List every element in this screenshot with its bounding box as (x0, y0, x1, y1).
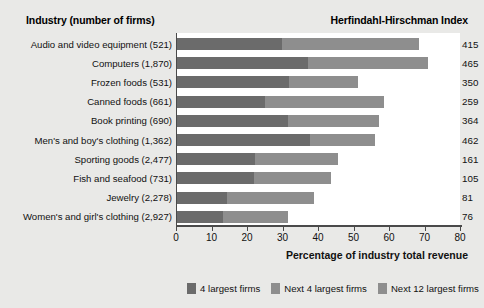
axis-tick (212, 225, 213, 231)
axis-tick (283, 225, 284, 231)
bar-segment (282, 38, 419, 50)
hhi-value-list: 4154653502593644621611058176 (462, 33, 482, 225)
bar-segment (310, 134, 375, 146)
category-label: Jewelry (2,278) (106, 192, 172, 203)
category-label: Sporting goods (2,477) (74, 154, 172, 165)
bar-segment (177, 76, 289, 88)
bar-segment (265, 96, 384, 108)
axis-tick (425, 225, 426, 231)
hhi-value: 76 (462, 211, 473, 222)
axis-tick-label: 20 (241, 232, 252, 243)
category-label: Women's and girl's clothing (2,927) (23, 211, 172, 222)
legend-swatch-icon (271, 283, 280, 294)
hhi-value: 259 (462, 96, 478, 107)
chart-legend: 4 largest firmsNext 4 largest firmsNext … (187, 283, 484, 294)
bar-segment (177, 38, 282, 50)
hhi-value: 462 (462, 135, 478, 146)
axis-tick (460, 225, 461, 231)
hhi-value: 364 (462, 115, 478, 126)
bar-segment (254, 172, 331, 184)
legend-item: 4 largest firms (187, 283, 260, 294)
bar-segment (177, 172, 254, 184)
axis-tick-label: 10 (206, 232, 217, 243)
axis-tick-label: 70 (419, 232, 430, 243)
category-label-list: Audio and video equipment (521)Computers… (0, 33, 172, 225)
industry-column-header: Industry (number of firms) (26, 14, 155, 26)
axis-tick-label: 80 (454, 232, 465, 243)
axis-tick (176, 225, 177, 231)
bar-segment (289, 76, 358, 88)
axis-tick (318, 225, 319, 231)
legend-swatch-icon (187, 283, 196, 294)
axis-tick-label: 0 (173, 232, 179, 243)
bar-segment (308, 57, 428, 69)
axis-tick-label: 60 (383, 232, 394, 243)
plot-area (176, 33, 460, 225)
category-label: Book printing (690) (91, 115, 172, 126)
category-label: Canned foods (661) (87, 96, 172, 107)
x-axis-title: Percentage of industry total revenue (286, 249, 468, 261)
bar-segment (255, 153, 338, 165)
bar-segment (223, 211, 288, 223)
bar-segment (288, 115, 379, 127)
hhi-value: 465 (462, 58, 478, 69)
category-label: Audio and video equipment (521) (31, 39, 172, 50)
hhi-value: 81 (462, 192, 473, 203)
axis-tick-label: 30 (277, 232, 288, 243)
hhi-value: 161 (462, 154, 478, 165)
hhi-value: 350 (462, 77, 478, 88)
bar-segment (177, 57, 308, 69)
axis-tick-label: 40 (312, 232, 323, 243)
legend-label: Next 4 largest firms (284, 283, 367, 294)
legend-label: 4 largest firms (200, 283, 260, 294)
legend-item: Next 4 largest firms (271, 283, 367, 294)
bar-segment (177, 192, 227, 204)
bar-segment (177, 153, 255, 165)
bar-segment (177, 134, 310, 146)
hhi-column-header: Herfindahl-Hirschman Index (331, 14, 468, 26)
bar-segment (177, 115, 288, 127)
category-label: Computers (1,870) (92, 58, 172, 69)
legend-label: Next 12 largest firms (391, 283, 479, 294)
axis-tick (354, 225, 355, 231)
hhi-value: 415 (462, 39, 478, 50)
bar-segment (227, 192, 314, 204)
bar-segment (177, 96, 265, 108)
category-label: Frozen foods (531) (91, 77, 172, 88)
axis-tick-label: 50 (348, 232, 359, 243)
category-label: Men's and boy's clothing (1,362) (34, 135, 172, 146)
axis-tick (247, 225, 248, 231)
legend-item: Next 12 largest firms (378, 283, 479, 294)
legend-swatch-icon (378, 283, 387, 294)
hhi-value: 105 (462, 173, 478, 184)
axis-tick (389, 225, 390, 231)
bar-segment (177, 211, 223, 223)
category-label: Fish and seafood (731) (73, 173, 172, 184)
